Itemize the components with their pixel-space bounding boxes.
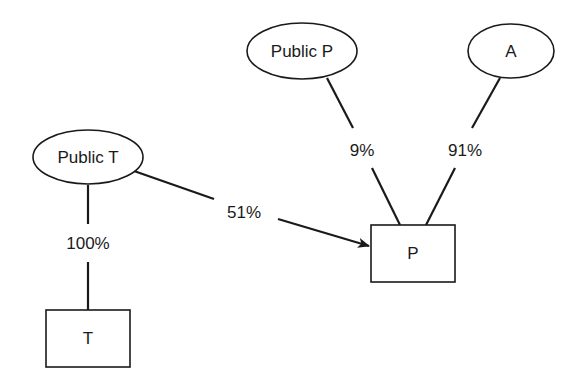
- node-label-t: T: [83, 329, 93, 348]
- node-label-p: P: [407, 244, 418, 263]
- edge-label-91: 91%: [448, 141, 482, 160]
- edge-label-9: 9%: [350, 141, 375, 160]
- edge-a-to-p: 91%: [426, 78, 500, 225]
- edge-public-t-to-t: 100%: [66, 185, 109, 310]
- arrow-icon: [278, 219, 369, 246]
- node-public-t: Public T: [33, 130, 143, 184]
- edge-public-p-to-p: 9%: [327, 78, 400, 225]
- node-label-public-p: Public P: [271, 42, 333, 61]
- node-label-a: A: [505, 42, 517, 61]
- ownership-diagram: 100% 51% 9% 91% Public T T Public P A: [0, 0, 578, 390]
- node-t: T: [46, 310, 130, 367]
- edge-public-t-to-p: 51%: [134, 171, 369, 246]
- node-public-p: Public P: [247, 23, 357, 79]
- node-p: P: [371, 225, 455, 282]
- edge-label-100: 100%: [66, 234, 109, 253]
- node-a: A: [468, 24, 554, 78]
- edge-label-51: 51%: [227, 203, 261, 222]
- node-label-public-t: Public T: [57, 148, 118, 167]
